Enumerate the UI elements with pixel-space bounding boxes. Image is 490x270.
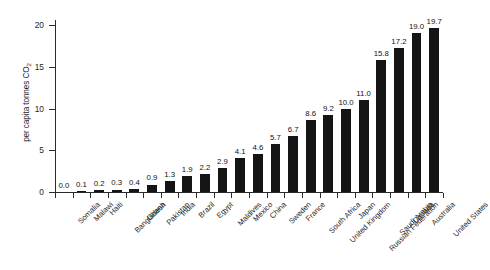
x-axis-tick	[108, 193, 109, 198]
bar-value-label: 19.7	[417, 17, 451, 26]
bar	[129, 189, 139, 192]
x-axis-tick	[425, 193, 426, 198]
y-axis-tick-label: 0	[14, 187, 44, 197]
bar	[288, 136, 298, 192]
bar	[323, 115, 333, 192]
x-axis-tick	[337, 193, 338, 198]
x-axis-tick	[161, 193, 162, 198]
bar	[147, 185, 157, 193]
x-axis-tick	[143, 193, 144, 198]
y-axis-line	[55, 20, 56, 193]
x-axis-tick	[196, 193, 197, 198]
x-axis-category-label: Brazil	[197, 200, 217, 220]
x-axis-tick	[284, 193, 285, 198]
bar	[271, 144, 281, 192]
bar	[412, 33, 422, 192]
bar	[429, 28, 439, 192]
bar	[376, 60, 386, 192]
x-axis-tick	[443, 193, 444, 198]
x-axis-tick	[302, 193, 303, 198]
x-axis-tick	[249, 193, 250, 198]
y-axis-tick-label: 20	[14, 20, 44, 30]
bar	[235, 158, 245, 192]
y-axis-tick	[49, 150, 55, 151]
x-axis-tick	[55, 193, 56, 198]
x-axis-category-label: Egypt	[215, 200, 235, 220]
bar	[94, 190, 104, 192]
x-axis-tick	[372, 193, 373, 198]
y-axis-tick-label: 10	[14, 104, 44, 114]
bar	[394, 48, 404, 192]
bar	[341, 109, 351, 192]
y-axis-tick	[49, 67, 55, 68]
x-axis-tick	[90, 193, 91, 198]
bar	[112, 190, 122, 193]
x-axis-tick	[178, 193, 179, 198]
x-axis-tick	[267, 193, 268, 198]
bar	[200, 174, 210, 192]
bar	[306, 120, 316, 192]
bar	[165, 181, 175, 192]
x-axis-tick	[214, 193, 215, 198]
bar	[359, 100, 369, 192]
bar	[218, 168, 228, 192]
x-axis-tick	[231, 193, 232, 198]
x-axis-tick	[390, 193, 391, 198]
x-axis-tick	[355, 193, 356, 198]
y-axis-tick	[49, 109, 55, 110]
x-axis-tick	[320, 193, 321, 198]
y-axis-tick-label: 5	[14, 145, 44, 155]
x-axis-tick	[408, 193, 409, 198]
bar	[182, 176, 192, 192]
bar	[77, 191, 87, 192]
y-axis-tick	[49, 25, 55, 26]
bar	[253, 154, 263, 192]
x-axis-tick	[126, 193, 127, 198]
x-axis-tick	[73, 193, 74, 198]
y-axis-tick-label: 15	[14, 62, 44, 72]
